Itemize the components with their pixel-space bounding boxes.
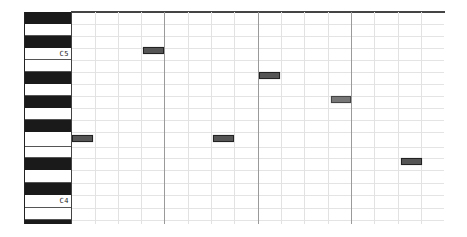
beat-gridline: [234, 12, 235, 224]
beat-gridline: [141, 12, 142, 224]
piano-key-black[interactable]: [25, 120, 72, 132]
piano-key-white[interactable]: [25, 108, 72, 120]
piano-key-white[interactable]: [25, 132, 72, 147]
beat-gridline: [95, 12, 96, 224]
piano-key-white[interactable]: [25, 24, 72, 36]
piano-key-black[interactable]: [25, 72, 72, 84]
beat-gridline: [398, 12, 399, 224]
piano-key-white[interactable]: [25, 147, 72, 158]
midi-note[interactable]: [143, 47, 164, 54]
key-label: C5: [60, 50, 69, 58]
beat-gridline: [118, 12, 119, 224]
beat-gridline: [374, 12, 375, 224]
beat-gridline: [304, 12, 305, 224]
piano-key-white[interactable]: [25, 84, 72, 96]
piano-key-black[interactable]: [25, 158, 72, 170]
bar-line: [164, 12, 165, 224]
beat-gridline: [281, 12, 282, 224]
midi-note-selected[interactable]: [331, 96, 351, 103]
piano-key-black[interactable]: [25, 183, 72, 195]
piano-key-white[interactable]: C4: [25, 195, 72, 208]
piano-key-white[interactable]: C5: [25, 48, 72, 60]
piano-key-black[interactable]: [25, 36, 72, 48]
beat-gridline: [211, 12, 212, 224]
piano-key-white[interactable]: [25, 60, 72, 72]
midi-note[interactable]: [401, 158, 422, 165]
bar-line: [351, 12, 352, 224]
midi-note[interactable]: [259, 72, 280, 79]
note-grid[interactable]: [71, 12, 444, 224]
midi-note[interactable]: [213, 135, 234, 142]
beat-gridline: [328, 12, 329, 224]
piano-keyboard[interactable]: C5C4: [24, 12, 72, 224]
piano-key-white[interactable]: [25, 170, 72, 183]
piano-key-black[interactable]: [25, 220, 72, 224]
midi-note[interactable]: [72, 135, 93, 142]
piano-key-white[interactable]: [25, 208, 72, 220]
bar-line: [258, 12, 259, 224]
piano-key-black[interactable]: [25, 96, 72, 108]
beat-gridline: [188, 12, 189, 224]
beat-gridline: [421, 12, 422, 224]
key-label: C4: [60, 197, 69, 205]
piano-roll-editor[interactable]: C5C4: [0, 0, 467, 237]
piano-key-black[interactable]: [25, 12, 72, 24]
